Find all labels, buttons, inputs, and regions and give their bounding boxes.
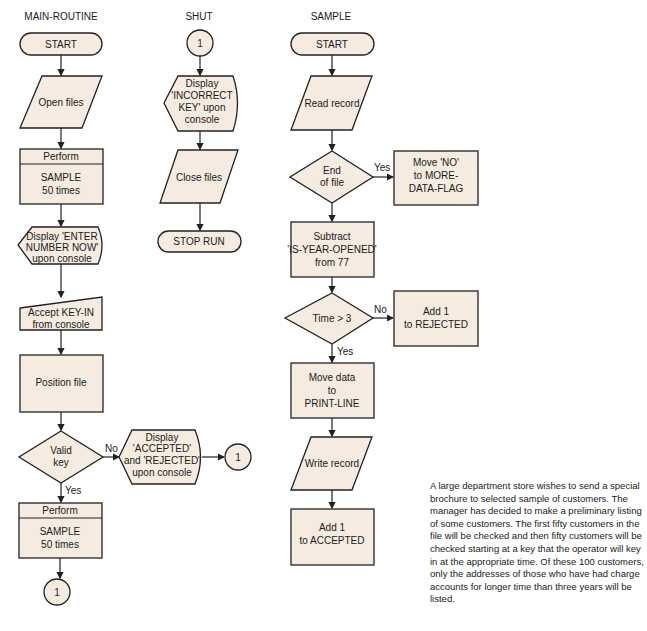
sample-move-data: Move data to PRINT-LINE	[291, 363, 374, 418]
sample-yes2-label: Yes	[337, 346, 353, 357]
sample-add-accepted: Add 1 to ACCEPTED	[291, 509, 374, 565]
sample-end-of-file-decision: End of file	[290, 151, 373, 203]
problem-description: A large department store wishes to send …	[430, 480, 645, 606]
main-display-accepted-rejected: Display 'ACCEPTED' and 'REJECTED' upon c…	[119, 430, 201, 484]
svg-text:50 times: 50 times	[42, 185, 80, 196]
svg-text:upon console: upon console	[132, 467, 192, 478]
svg-text:Subtract: Subtract	[313, 231, 350, 242]
sample-time-decision: Time > 3	[285, 293, 373, 344]
svg-text:NUMBER NOW': NUMBER NOW'	[26, 242, 99, 253]
svg-text:PRINT-LINE: PRINT-LINE	[304, 398, 359, 409]
svg-text:DATA-FLAG: DATA-FLAG	[409, 183, 464, 194]
svg-text:KEY' upon: KEY' upon	[179, 102, 226, 113]
svg-text:Open files: Open files	[38, 97, 83, 108]
svg-text:1: 1	[235, 452, 241, 463]
svg-text:Move 'NO': Move 'NO'	[413, 157, 459, 168]
svg-text:from 77: from 77	[315, 257, 349, 268]
shut-close-files-io: Close files	[160, 150, 238, 203]
svg-text:Read record: Read record	[304, 98, 359, 109]
shut-stop-run-terminal: STOP RUN	[158, 231, 241, 252]
sample-start-terminal: START	[291, 33, 374, 55]
sample-move-no-flag: Move 'NO' to MORE- DATA-FLAG	[394, 151, 478, 205]
main-routine-title: MAIN-ROUTINE	[24, 11, 98, 22]
svg-text:to ACCEPTED: to ACCEPTED	[299, 535, 364, 546]
svg-text:Close files: Close files	[176, 172, 222, 183]
svg-text:Move data: Move data	[309, 372, 356, 383]
main-open-files-io: Open files	[20, 76, 102, 128]
svg-text:and 'REJECTED': and 'REJECTED'	[124, 455, 200, 466]
shut-display-incorrect-key: Display 'INCORRECT KEY' upon console	[164, 76, 238, 131]
svg-text:key: key	[53, 457, 69, 468]
svg-text:'IS-YEAR-OPENED': 'IS-YEAR-OPENED'	[287, 244, 376, 255]
shut-connector: 1	[187, 30, 213, 56]
main-perform-sample-1: Perform SAMPLE 50 times	[20, 149, 103, 204]
svg-text:to MORE-: to MORE-	[414, 170, 458, 181]
svg-text:'INCORRECT: 'INCORRECT	[171, 90, 232, 101]
sample-yes-label: Yes	[374, 162, 390, 173]
main-connector-right: 1	[225, 444, 251, 470]
svg-text:SAMPLE: SAMPLE	[40, 526, 81, 537]
svg-text:to REJECTED: to REJECTED	[404, 319, 468, 330]
main-yes-label: Yes	[65, 485, 81, 496]
sample-add-rejected: Add 1 to REJECTED	[394, 291, 478, 346]
svg-text:START: START	[316, 39, 348, 50]
svg-text:to: to	[328, 385, 337, 396]
svg-text:STOP RUN: STOP RUN	[173, 236, 224, 247]
svg-text:Display 'ENTER: Display 'ENTER	[26, 231, 97, 242]
svg-text:Display: Display	[146, 432, 179, 443]
main-start-terminal: START	[20, 33, 102, 55]
svg-text:Add 1: Add 1	[423, 306, 450, 317]
svg-text:1: 1	[197, 38, 203, 49]
main-no-label: No	[105, 443, 118, 454]
svg-text:Position file: Position file	[35, 377, 87, 388]
sample-subtract-year: Subtract 'IS-YEAR-OPENED' from 77	[287, 222, 376, 277]
main-connector-bottom: 1	[44, 579, 70, 605]
sample-write-record-io: Write record	[291, 437, 372, 490]
svg-text:End: End	[323, 165, 341, 176]
svg-text:Add 1: Add 1	[319, 522, 346, 533]
main-display-enter-number: Display 'ENTER NUMBER NOW' upon console	[18, 227, 102, 264]
sample-read-record-io: Read record	[291, 76, 372, 130]
svg-text:Display: Display	[186, 78, 219, 89]
svg-text:of file: of file	[320, 177, 344, 188]
svg-text:console: console	[185, 114, 220, 125]
svg-text:Write record: Write record	[305, 458, 359, 469]
svg-text:Accept KEY-IN: Accept KEY-IN	[28, 307, 94, 318]
svg-text:'ACCEPTED': 'ACCEPTED'	[133, 443, 191, 454]
sample-no-label: No	[374, 304, 387, 315]
svg-text:from console: from console	[32, 319, 90, 330]
sample-title: SAMPLE	[311, 11, 352, 22]
svg-text:Perform: Perform	[42, 505, 78, 516]
svg-text:1: 1	[54, 587, 60, 598]
main-accept-key-in-manual-input: Accept KEY-IN from console	[20, 297, 102, 330]
svg-text:SAMPLE: SAMPLE	[41, 172, 82, 183]
svg-text:START: START	[45, 39, 77, 50]
main-position-file-process: Position file	[20, 355, 103, 412]
main-perform-sample-2: Perform SAMPLE 50 times	[19, 503, 102, 558]
svg-text:Valid: Valid	[50, 445, 72, 456]
svg-text:Perform: Perform	[43, 151, 79, 162]
svg-text:upon console: upon console	[32, 253, 92, 264]
main-valid-key-decision: Valid key	[19, 431, 103, 483]
svg-text:Time > 3: Time > 3	[313, 313, 352, 324]
shut-title: SHUT	[185, 11, 212, 22]
svg-text:50 times: 50 times	[41, 539, 79, 550]
